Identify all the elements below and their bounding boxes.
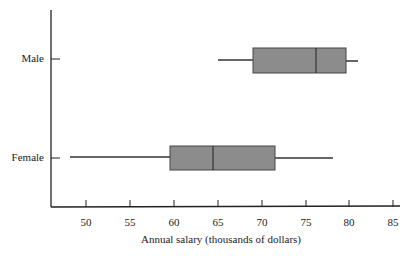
- box-male: [218, 48, 358, 73]
- iqr-box-female: [170, 146, 275, 170]
- x-axis-line: [51, 206, 400, 207]
- x-tick-label: 65: [203, 216, 233, 228]
- x-axis-title: Annual salary (thousands of dollars): [0, 233, 414, 245]
- iqr-box-male: [253, 48, 346, 73]
- x-tick-label: 50: [71, 216, 101, 228]
- x-tick-label: 80: [334, 216, 364, 228]
- x-tick-label: 55: [115, 216, 145, 228]
- box-female: [70, 146, 333, 170]
- x-tick-label: 85: [378, 216, 408, 228]
- category-label-female: Female: [0, 151, 44, 163]
- x-tick-label: 75: [291, 216, 321, 228]
- x-tick-label: 70: [247, 216, 277, 228]
- x-tick-label: 60: [159, 216, 189, 228]
- category-label-male: Male: [0, 52, 44, 64]
